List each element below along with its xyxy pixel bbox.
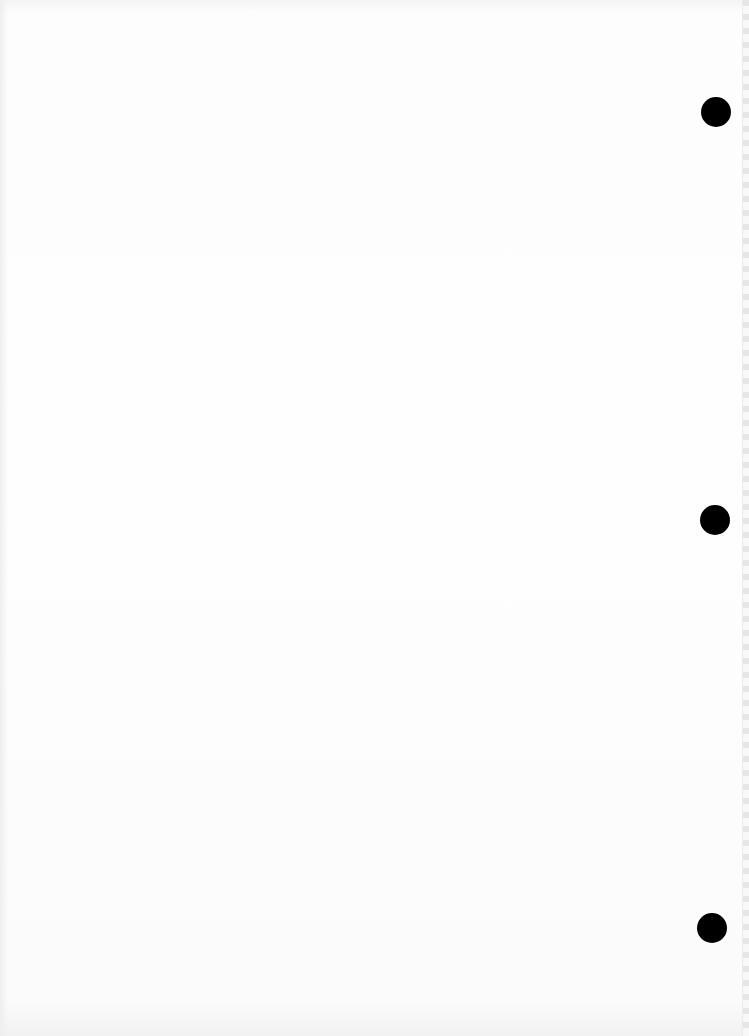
blank-scanned-page xyxy=(0,0,749,1036)
punch-hole-middle xyxy=(700,505,730,535)
punch-hole-bottom xyxy=(697,913,727,943)
punch-hole-top xyxy=(701,97,731,127)
right-scan-edge-binding xyxy=(742,0,749,1036)
left-scan-edge-shadow xyxy=(0,0,8,1036)
